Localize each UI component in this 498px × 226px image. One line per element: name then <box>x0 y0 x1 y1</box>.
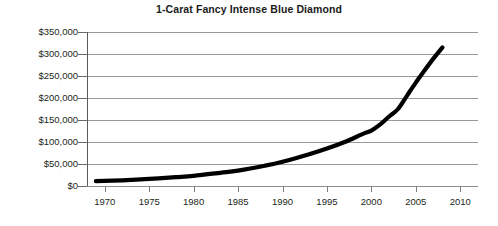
x-tick-label: 1975 <box>126 196 172 207</box>
x-tick-mark <box>371 186 372 192</box>
gridline-y <box>87 54 478 55</box>
x-tick-label: 2000 <box>348 196 394 207</box>
x-tick-mark <box>460 186 461 192</box>
x-tick-mark <box>238 186 239 192</box>
x-tick-label: 2005 <box>393 196 439 207</box>
x-tick-mark <box>149 186 150 192</box>
y-axis-labels: $350,000$300,000$250,000$200,000$150,000… <box>14 0 78 226</box>
y-tick-label: $200,000 <box>20 93 78 102</box>
y-tick-label: $50,000 <box>20 159 78 168</box>
x-tick-mark <box>105 186 106 192</box>
x-tick-label: 2010 <box>437 196 483 207</box>
gridline-y <box>87 98 478 99</box>
x-tick-mark <box>194 186 195 192</box>
gridline-y <box>87 32 478 33</box>
y-tick-mark <box>78 98 87 99</box>
y-tick-mark <box>78 76 87 77</box>
y-tick-label: $250,000 <box>20 71 78 80</box>
y-tick-mark <box>78 32 87 33</box>
gridline-y <box>87 120 478 121</box>
x-tick-label: 1990 <box>260 196 306 207</box>
x-tick-label: 1995 <box>304 196 350 207</box>
y-tick-label: $350,000 <box>20 27 78 36</box>
x-tick-mark <box>416 186 417 192</box>
y-tick-label: $300,000 <box>20 49 78 58</box>
chart-container: 1-Carat Fancy Intense Blue Diamond $350,… <box>0 0 498 226</box>
y-tick-label: $0 <box>20 181 78 190</box>
plot-area <box>87 32 478 186</box>
x-tick-mark <box>283 186 284 192</box>
gridline-y <box>87 142 478 143</box>
y-tick-mark <box>78 54 87 55</box>
y-tick-label: $150,000 <box>20 115 78 124</box>
y-tick-mark <box>78 164 87 165</box>
gridline-y <box>87 76 478 77</box>
x-tick-label: 1970 <box>82 196 128 207</box>
y-tick-mark <box>78 120 87 121</box>
gridline-y <box>87 164 478 165</box>
x-tick-label: 1985 <box>215 196 261 207</box>
x-tick-label: 1980 <box>171 196 217 207</box>
y-tick-mark <box>78 142 87 143</box>
y-tick-mark <box>78 186 87 187</box>
y-tick-label: $100,000 <box>20 137 78 146</box>
x-tick-mark <box>327 186 328 192</box>
y-axis-line <box>87 32 88 187</box>
